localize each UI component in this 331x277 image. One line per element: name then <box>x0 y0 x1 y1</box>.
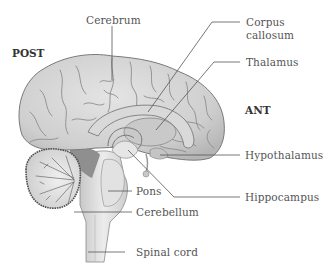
posterior-direction-label: POST <box>12 47 44 59</box>
anterior-direction-label: ANT <box>245 104 271 116</box>
label-corpus-callosum-line1: Corpus <box>246 16 285 28</box>
brain-illustration <box>0 0 331 277</box>
label-hypothalamus: Hypothalamus <box>245 149 323 161</box>
label-hippocampus: Hippocampus <box>245 191 319 203</box>
label-corpus-callosum-line2: callosum <box>246 29 294 41</box>
label-cerebellum: Cerebellum <box>136 206 199 218</box>
thalamus-shape <box>124 118 176 146</box>
label-pons: Pons <box>136 185 162 197</box>
cerebellum-shape <box>26 149 80 208</box>
label-cerebrum: Cerebrum <box>86 14 141 26</box>
label-spinal-cord: Spinal cord <box>136 246 198 258</box>
brain-diagram: POST ANT Cerebrum Corpus callosum Thalam… <box>0 0 331 277</box>
label-thalamus: Thalamus <box>246 56 299 68</box>
